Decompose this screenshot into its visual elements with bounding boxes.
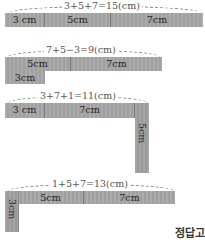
equation: 3+7+1=11(cm) [38, 91, 118, 101]
segment-5cm: 5cm [5, 57, 71, 71]
equation: 3+5+7=15(cm) [62, 1, 142, 11]
segment-3cm: 3 cm [5, 13, 45, 27]
segment-5cm: 5cm [18, 191, 84, 204]
segment-3cm: 3cm [5, 199, 19, 219]
strip-bar-below: 3cm [5, 71, 45, 84]
segment-7cm: 7cm [111, 13, 203, 27]
equation: 7+5−3=9(cm) [44, 45, 118, 55]
vertical-strip: 5cm [135, 103, 149, 173]
segment-7cm: 7cm [45, 103, 135, 118]
segment-3cm: 3cm [5, 71, 45, 84]
segment-7cm: 7cm [84, 191, 175, 204]
segment-5cm: 5cm [135, 123, 149, 143]
strip-bar: 3 cm 7cm [5, 103, 135, 118]
segment-7cm: 7cm [71, 57, 162, 71]
equation: 1+5+7=13(cm) [50, 179, 130, 189]
vertical-strip: 3cm [5, 191, 19, 232]
segment-3cm: 3 cm [5, 103, 45, 118]
answer-label: 정답고 [175, 224, 205, 240]
strip-bar: 5cm 7cm [5, 57, 162, 71]
strip-bar: 5cm 7cm [18, 191, 175, 204]
segment-5cm: 5cm [45, 13, 111, 27]
strip-bar: 3 cm 5cm 7cm [5, 13, 203, 27]
